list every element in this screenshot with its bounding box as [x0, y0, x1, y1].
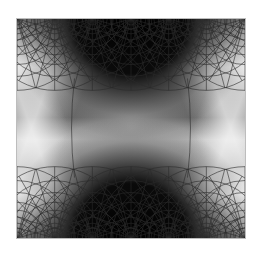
domain-coloring-plot: [17, 19, 245, 238]
plot-panel: [16, 18, 246, 239]
